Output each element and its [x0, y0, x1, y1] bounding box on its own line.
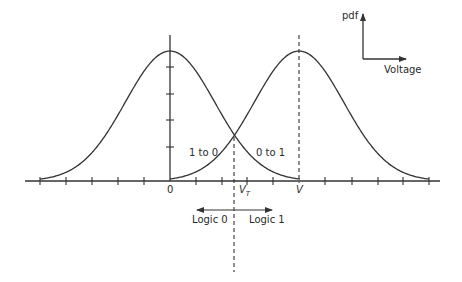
zero-label: 0	[167, 185, 173, 195]
zero-to-one-label: 0 to 1	[256, 148, 285, 158]
vt-label-sub: T	[246, 190, 250, 198]
one-to-zero-label: 1 to 0	[189, 148, 218, 158]
legend-pdf-label: pdf	[342, 11, 358, 21]
vt-label: VT	[239, 185, 250, 195]
pdf-diagram	[0, 0, 462, 282]
vt-label-main: V	[239, 184, 246, 195]
legend-voltage-label: Voltage	[384, 65, 422, 75]
logic-1-label: Logic 1	[249, 215, 285, 225]
v-label: V	[296, 185, 303, 195]
logic-0-label: Logic 0	[192, 215, 228, 225]
